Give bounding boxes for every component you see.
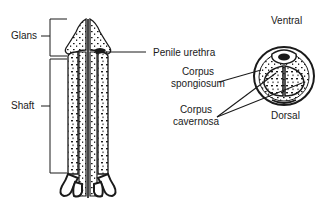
label-corpus-cavernosa: Corpus cavernosa — [166, 104, 226, 128]
label-shaft: Shaft — [11, 100, 34, 112]
label-corpus-spongiosum-line2: spongiosum — [168, 78, 228, 90]
label-penile-urethra: Penile urethra — [153, 47, 215, 59]
left-column — [60, 19, 86, 197]
shaft-bracket — [41, 59, 67, 173]
label-dorsal: Dorsal — [271, 110, 300, 122]
label-ventral: Ventral — [271, 15, 302, 27]
label-glans: Glans — [11, 30, 37, 42]
glans-bracket — [41, 19, 67, 56]
label-corpus-cavernosa-line2: cavernosa — [166, 116, 226, 128]
cross-section-view — [217, 47, 314, 117]
penis-anatomy-diagram: Glans Shaft Penile urethra Corpus spongi… — [0, 0, 332, 211]
label-corpus-spongiosum-line1: Corpus — [168, 66, 228, 78]
longitudinal-view — [41, 19, 146, 198]
label-corpus-spongiosum: Corpus spongiosum — [168, 66, 228, 90]
label-corpus-cavernosa-line1: Corpus — [166, 104, 226, 116]
right-column — [90, 19, 116, 197]
